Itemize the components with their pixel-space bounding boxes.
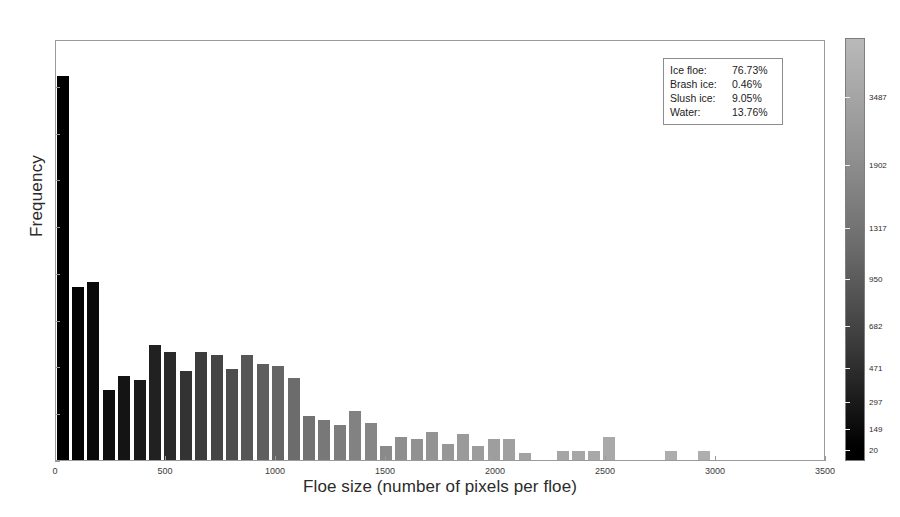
histogram-bar bbox=[149, 345, 161, 460]
x-axis-tick-label: 1500 bbox=[375, 466, 395, 476]
composition-label: Ice floe: bbox=[670, 63, 707, 77]
histogram-bar bbox=[318, 420, 330, 460]
colorbar-tick-mark bbox=[845, 279, 850, 280]
x-axis-tick-label: 1000 bbox=[265, 466, 285, 476]
y-axis-tick-mark bbox=[55, 461, 60, 462]
histogram-bar bbox=[118, 376, 130, 460]
x-axis-tick-label: 2000 bbox=[485, 466, 505, 476]
histogram-figure: 0102030405060708090050010001500200025003… bbox=[0, 0, 900, 517]
x-axis-tick-label: 0 bbox=[52, 466, 57, 476]
histogram-bar bbox=[503, 439, 515, 460]
composition-value: 76.73% bbox=[732, 63, 776, 77]
histogram-bar bbox=[349, 411, 361, 460]
colorbar-tick-label: 682 bbox=[869, 321, 882, 330]
histogram-bar bbox=[334, 425, 346, 460]
composition-label: Water: bbox=[670, 105, 701, 119]
histogram-bar bbox=[180, 371, 192, 460]
histogram-bar bbox=[365, 423, 377, 460]
x-axis-tick-label: 2500 bbox=[595, 466, 615, 476]
y-axis-label: Frequency bbox=[27, 136, 47, 256]
x-axis-tick-mark bbox=[825, 456, 826, 461]
x-axis-tick-label: 3500 bbox=[815, 466, 835, 476]
colorbar-tick-mark bbox=[845, 402, 850, 403]
histogram-bar bbox=[442, 444, 454, 460]
histogram-bar bbox=[698, 451, 710, 460]
histogram-bar bbox=[457, 434, 469, 460]
colorbar-tick-label: 1902 bbox=[869, 160, 887, 169]
x-axis-tick-label: 3000 bbox=[705, 466, 725, 476]
colorbar-tick-mark bbox=[845, 97, 850, 98]
histogram-bar bbox=[195, 352, 207, 460]
colorbar-tick-label: 20 bbox=[869, 446, 878, 455]
colorbar-tick-label: 3487 bbox=[869, 93, 887, 102]
colorbar-tick-label: 950 bbox=[869, 275, 882, 284]
histogram-bar bbox=[257, 364, 269, 460]
colorbar-tick-label: 1317 bbox=[869, 224, 887, 233]
colorbar-tick-mark bbox=[845, 368, 850, 369]
composition-value: 9.05% bbox=[732, 91, 776, 105]
composition-row: Water:13.76% bbox=[670, 105, 776, 119]
composition-label: Brash ice: bbox=[670, 77, 717, 91]
histogram-bar bbox=[472, 446, 484, 460]
histogram-bar bbox=[519, 453, 531, 460]
colorbar-tick-mark bbox=[845, 165, 850, 166]
histogram-bar bbox=[87, 282, 99, 460]
colorbar-tick-label: 471 bbox=[869, 363, 882, 372]
histogram-bar bbox=[426, 432, 438, 460]
colorbar-tick-mark bbox=[845, 326, 850, 327]
histogram-bar bbox=[557, 451, 569, 460]
composition-row: Brash ice:0.46% bbox=[670, 77, 776, 91]
histogram-bar bbox=[72, 287, 84, 460]
composition-value: 0.46% bbox=[732, 77, 776, 91]
histogram-bar bbox=[288, 378, 300, 460]
histogram-bar bbox=[603, 437, 615, 460]
colorbar-tick-mark bbox=[845, 429, 850, 430]
histogram-bar bbox=[588, 451, 600, 460]
x-axis-tick-label: 500 bbox=[157, 466, 172, 476]
composition-row: Ice floe:76.73% bbox=[670, 63, 776, 77]
composition-row: Slush ice:9.05% bbox=[670, 91, 776, 105]
colorbar-tick-mark bbox=[845, 228, 850, 229]
histogram-bar bbox=[303, 416, 315, 460]
colorbar-tick-label: 297 bbox=[869, 397, 882, 406]
histogram-bar bbox=[57, 76, 69, 460]
histogram-bar bbox=[211, 355, 223, 460]
colorbar-tick-label: 149 bbox=[869, 425, 882, 434]
histogram-bar bbox=[226, 369, 238, 460]
colorbar-tick-mark bbox=[845, 450, 850, 451]
composition-value: 13.76% bbox=[732, 105, 776, 119]
composition-label: Slush ice: bbox=[670, 91, 716, 105]
histogram-bar bbox=[411, 439, 423, 460]
composition-annotation-box: Ice floe:76.73%Brash ice:0.46%Slush ice:… bbox=[663, 58, 783, 125]
histogram-bar bbox=[134, 380, 146, 460]
colorbar bbox=[845, 38, 865, 461]
histogram-bar bbox=[395, 437, 407, 460]
histogram-bar bbox=[572, 451, 584, 460]
histogram-bar bbox=[272, 366, 284, 460]
histogram-bar bbox=[665, 451, 677, 460]
x-axis-label: Floe size (number of pixels per floe) bbox=[55, 477, 825, 497]
histogram-bar bbox=[241, 355, 253, 460]
histogram-bar bbox=[164, 352, 176, 460]
histogram-bar bbox=[380, 446, 392, 460]
histogram-bar bbox=[488, 439, 500, 460]
histogram-bar bbox=[103, 390, 115, 460]
